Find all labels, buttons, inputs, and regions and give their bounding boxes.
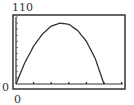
- graph-frame: [13, 15, 125, 89]
- parabola-curve: [16, 23, 104, 84]
- calculator-graph: [0, 0, 134, 105]
